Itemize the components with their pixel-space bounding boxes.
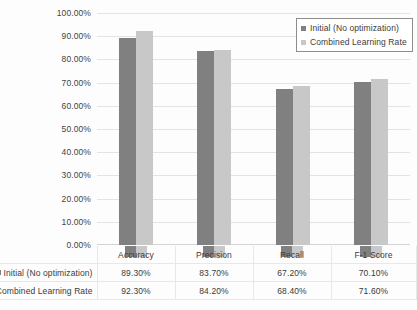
table-row-label: Combined Learning Rate <box>0 286 93 296</box>
table-header-row: Accuracy Precision Recall F-1 Score <box>0 246 416 264</box>
cell-combined-f1-score: 71.60% <box>331 282 416 300</box>
bar-group-accuracy <box>97 13 175 245</box>
bar-combined-precision[interactable] <box>214 50 231 245</box>
cell-initial-f1-score: 70.10% <box>331 264 416 282</box>
cell-combined-precision: 84.20% <box>175 282 253 300</box>
y-axis-tick-label: 60.00% <box>1 101 91 111</box>
cell-combined-recall: 68.40% <box>253 282 331 300</box>
legend-entry-combined[interactable]: Combined Learning Rate <box>301 37 407 47</box>
y-axis-tick-label: 70.00% <box>1 78 91 88</box>
table-row-header-initial: Initial (No optimization) <box>0 264 97 282</box>
bar-combined-f1-score[interactable] <box>371 79 388 245</box>
y-axis-tick-label: 10.00% <box>1 217 91 227</box>
legend-entry-label: Initial (No optimization) <box>310 23 399 33</box>
cell-initial-accuracy: 89.30% <box>97 264 175 282</box>
cell-initial-recall: 67.20% <box>253 264 331 282</box>
y-axis-tick-label: 40.00% <box>1 147 91 157</box>
y-axis-tick-label: 100.00% <box>1 8 91 18</box>
y-axis-tick-label: 30.00% <box>1 170 91 180</box>
table-row: Combined Learning Rate 92.30% 84.20% 68.… <box>0 282 416 300</box>
column-header-recall: Recall <box>253 246 331 264</box>
bar-combined-recall[interactable] <box>293 86 310 245</box>
table-corner-cell <box>0 246 97 264</box>
legend-entry-initial[interactable]: Initial (No optimization) <box>301 23 407 33</box>
column-header-f1-score: F-1 Score <box>331 246 416 264</box>
y-axis-tick-label: 20.00% <box>1 194 91 204</box>
legend-swatch-icon <box>301 26 306 31</box>
bar-combined-accuracy[interactable] <box>136 31 153 245</box>
legend-swatch-icon <box>301 40 306 45</box>
table-row-header-combined: Combined Learning Rate <box>0 282 97 300</box>
y-axis-tick-label: 90.00% <box>1 31 91 41</box>
column-header-accuracy: Accuracy <box>97 246 175 264</box>
table-row: Initial (No optimization) 89.30% 83.70% … <box>0 264 416 282</box>
legend-entry-label: Combined Learning Rate <box>310 37 407 47</box>
chart-legend: Initial (No optimization) Combined Learn… <box>296 18 413 52</box>
y-axis-tick-label: 80.00% <box>1 54 91 64</box>
cell-combined-accuracy: 92.30% <box>97 282 175 300</box>
bar-initial-f1-score[interactable] <box>354 82 371 245</box>
bar-initial-precision[interactable] <box>197 51 214 245</box>
bar-group-precision <box>175 13 253 245</box>
data-table: Accuracy Precision Recall F-1 Score Init… <box>0 246 417 300</box>
bar-initial-recall[interactable] <box>276 89 293 245</box>
y-axis-tick-label: 50.00% <box>1 124 91 134</box>
cell-initial-precision: 83.70% <box>175 264 253 282</box>
table-swatch-icon <box>0 270 1 275</box>
column-header-precision: Precision <box>175 246 253 264</box>
table-row-label: Initial (No optimization) <box>4 268 93 278</box>
bar-initial-accuracy[interactable] <box>119 38 136 245</box>
